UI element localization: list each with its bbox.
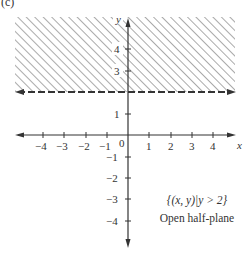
panel-label: (c): [1, 0, 14, 8]
y-tick-label: −1: [106, 152, 118, 163]
set-notation: {(x, y)|y > 2}: [152, 194, 242, 206]
x-tick-label: 2: [168, 141, 174, 152]
y-tick-label: −2: [106, 173, 118, 184]
caption-label: Open half-plane: [152, 212, 242, 224]
x-tick-label: −4: [35, 141, 47, 152]
y-tick-label: 1: [114, 109, 120, 120]
x-tick-label: −3: [56, 141, 68, 152]
x-axis-label: x: [237, 140, 242, 151]
y-tick-label: 3: [114, 66, 120, 77]
x-tick-label: 3: [189, 141, 195, 152]
x-tick-label: 4: [210, 141, 216, 152]
x-tick-label: −2: [78, 141, 90, 152]
origin-label: 0: [119, 138, 125, 149]
y-axis-label: y: [116, 14, 121, 25]
y-tick-label: 4: [114, 44, 120, 55]
shaded-region: [15, 17, 235, 92]
x-tick-label: 1: [146, 141, 152, 152]
y-tick-label: −4: [106, 216, 118, 227]
y-tick-label: −3: [106, 194, 118, 205]
